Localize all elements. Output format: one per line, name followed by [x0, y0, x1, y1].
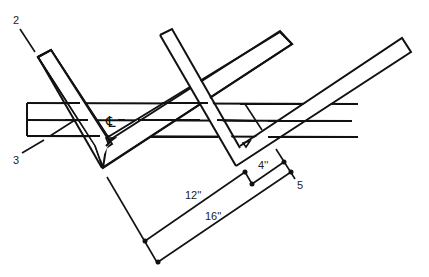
rafter-diagram: ℄ 2 3 12'' 16'' 4'' 5 — [0, 0, 429, 277]
callout-3-label: 3 — [13, 154, 19, 166]
callout-2-leader — [20, 29, 35, 52]
dim-12-start-dot — [143, 239, 148, 244]
dim-4-start-dot — [250, 182, 255, 187]
centerline-symbol: ℄ — [105, 113, 116, 131]
callout-2: 2 — [13, 14, 35, 52]
dim-12-line — [145, 172, 245, 241]
extension-line-right — [276, 149, 295, 179]
dim-4-label: 4'' — [258, 159, 268, 171]
right-brace-line — [245, 104, 262, 130]
dimensions: 12'' 16'' 4'' — [107, 149, 295, 265]
dim-16-start-dot — [156, 260, 161, 265]
right-rafter-pair — [160, 29, 411, 166]
callout-3: 3 — [13, 140, 44, 166]
dim-12-label: 12'' — [185, 189, 201, 201]
dim-16-label: 16'' — [205, 210, 221, 222]
callout-3-leader — [22, 140, 44, 153]
left-brace-line — [50, 120, 75, 136]
callout-5-label: 5 — [297, 179, 303, 191]
callout-2-label: 2 — [13, 14, 19, 26]
extension-line-left — [107, 177, 158, 264]
